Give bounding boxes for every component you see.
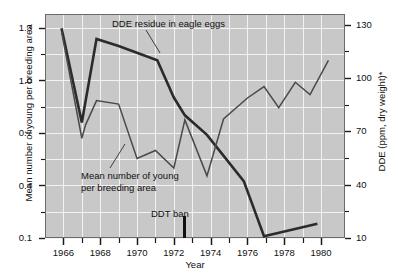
x-axis-tick-label: 1972 — [157, 247, 191, 258]
y-axis-right-tick-label: 70 — [356, 125, 386, 136]
chart-figure: Mean number of young per breeding area D… — [0, 0, 398, 278]
plot-area — [0, 0, 398, 278]
y-axis-right-tick-label: 10 — [356, 232, 386, 243]
annotation-dde-residue-text: DDE residue in eagle eggs — [112, 18, 225, 29]
x-axis-tick-label: 1968 — [83, 247, 117, 258]
y-axis-right-tick-label: 40 — [356, 179, 386, 190]
y-axis-right-tick-label: 100 — [356, 72, 386, 83]
y-axis-left-tick-label: 0.1 — [2, 232, 32, 243]
x-axis-title: Year — [45, 259, 345, 270]
annotation-mean-young: Mean number of young per breeding area — [81, 170, 179, 193]
x-axis-tick-label: 1970 — [120, 247, 154, 258]
x-axis-tick-label: 1974 — [194, 247, 228, 258]
y-axis-left-tick-label: 0.7 — [2, 127, 32, 138]
y-axis-left-tick-label: 1.3 — [2, 22, 32, 33]
x-axis-tick-label: 1966 — [46, 247, 80, 258]
x-axis-tick-label: 1980 — [304, 247, 338, 258]
annotation-mean-young-line2: per breeding area — [81, 182, 179, 194]
annotation-mean-young-line1: Mean number of young — [81, 170, 179, 182]
y-axis-left-tick-label: 0.4 — [2, 180, 32, 191]
annotation-dde-residue: DDE residue in eagle eggs — [112, 18, 225, 30]
annotation-ddt-ban-text: DDT ban — [151, 208, 189, 219]
x-axis-tick-label: 1978 — [267, 247, 301, 258]
y-axis-right-tick-label: 130 — [356, 19, 386, 30]
annotation-ddt-ban: DDT ban — [151, 208, 189, 220]
x-axis-tick-label: 1976 — [230, 247, 264, 258]
y-axis-left-title: Mean number of young per breeding area — [23, 42, 34, 202]
y-axis-left-tick-label: 1.0 — [2, 75, 32, 86]
